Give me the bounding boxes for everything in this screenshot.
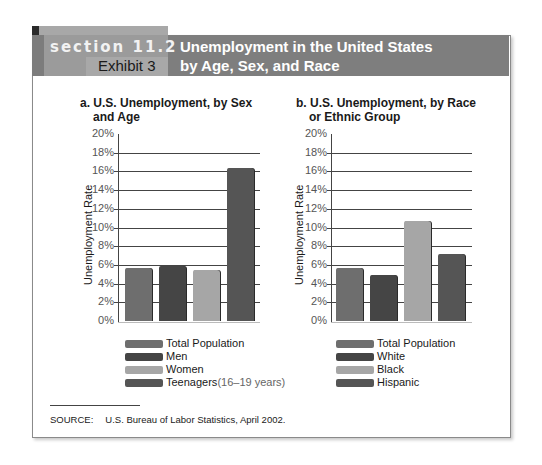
legend-item: Hispanic xyxy=(336,376,455,389)
chart-b-title-line1: b. U.S. Unemployment, by Race xyxy=(296,96,476,110)
bar-women xyxy=(193,270,220,321)
header-corner xyxy=(32,26,39,35)
source-text: U.S. Bureau of Labor Statistics, April 2… xyxy=(105,414,285,425)
exhibit-title-line2: by Age, Sex, and Race xyxy=(180,57,340,74)
bar-hispanic xyxy=(438,254,465,321)
source-label: SOURCE: xyxy=(50,414,93,425)
legend-label: Black xyxy=(377,363,404,376)
legend-item: Total Population xyxy=(336,337,455,350)
source-note: SOURCE:U.S. Bureau of Labor Statistics, … xyxy=(50,414,285,425)
legend-item: Total Population xyxy=(125,337,285,350)
exhibit-title-line1: Unemployment in the United States xyxy=(180,38,433,55)
legend-swatch xyxy=(125,340,163,348)
chart-a-legend: Total PopulationMenWomenTeenagers (16–19… xyxy=(125,337,285,389)
gridline xyxy=(327,228,472,229)
bar-men xyxy=(159,266,186,321)
legend-swatch xyxy=(336,366,374,374)
chart-b-legend: Total PopulationWhiteBlackHispanic xyxy=(336,337,455,389)
legend-label: Men xyxy=(166,350,187,363)
legend-note: (16–19 years) xyxy=(217,376,285,389)
y-tick-label: 18% xyxy=(293,146,327,158)
y-tick-label: 20% xyxy=(293,127,327,139)
bar-black xyxy=(404,221,431,321)
legend-item: White xyxy=(336,350,455,363)
x-axis xyxy=(118,322,260,323)
bar-total-population xyxy=(125,268,152,321)
gridline xyxy=(327,209,472,210)
exhibit-label: Exhibit 3 xyxy=(98,57,156,74)
y-tick-label: 2% xyxy=(293,295,327,307)
bar-white xyxy=(370,275,397,321)
legend-swatch xyxy=(336,379,374,387)
header-top-strip xyxy=(32,26,168,35)
y-tick-label: 0% xyxy=(293,314,327,326)
bar-total-population xyxy=(336,268,363,321)
section-label: section 11.2 xyxy=(50,38,178,56)
y-tick-label: 16% xyxy=(293,164,327,176)
chart-a-title-line1: a. U.S. Unemployment, by Sex xyxy=(80,96,252,110)
legend-item: Men xyxy=(125,350,285,363)
legend-label: Total Population xyxy=(166,337,244,350)
y-tick-label: 18% xyxy=(80,146,114,158)
chart-b-title-line2: or Ethnic Group xyxy=(296,110,476,124)
chart-b-ylabel: Unemployment Rate xyxy=(293,185,305,285)
y-tick-label: 16% xyxy=(80,164,114,176)
chart-a-title: a. U.S. Unemployment, by Sex and Age xyxy=(80,96,252,124)
gridline xyxy=(327,171,472,172)
gridline xyxy=(327,190,472,191)
legend-item: Teenagers (16–19 years) xyxy=(125,376,285,389)
legend-item: Black xyxy=(336,363,455,376)
y-axis xyxy=(118,134,119,322)
bar-teenagers-years xyxy=(227,168,254,321)
legend-label: Hispanic xyxy=(377,376,419,389)
legend-swatch xyxy=(125,379,163,387)
y-tick-label: 0% xyxy=(80,314,114,326)
y-tick-label: 2% xyxy=(80,295,114,307)
legend-label: Teenagers xyxy=(166,376,217,389)
header-left-strip xyxy=(32,35,44,76)
legend-swatch xyxy=(125,366,163,374)
legend-swatch xyxy=(336,353,374,361)
chart-a-ylabel: Unemployment Rate xyxy=(82,185,94,285)
legend-label: Women xyxy=(166,363,204,376)
legend-item: Women xyxy=(125,363,285,376)
legend-label: White xyxy=(377,350,405,363)
legend-swatch xyxy=(125,353,163,361)
source-divider xyxy=(50,405,140,406)
chart-a-title-line2: and Age xyxy=(80,110,252,124)
y-axis xyxy=(331,134,332,322)
gridline xyxy=(327,153,472,154)
chart-b-title: b. U.S. Unemployment, by Race or Ethnic … xyxy=(296,96,476,124)
gridline xyxy=(327,246,472,247)
x-axis xyxy=(331,322,472,323)
legend-swatch xyxy=(336,340,374,348)
gridline xyxy=(114,153,260,154)
legend-label: Total Population xyxy=(377,337,455,350)
y-tick-label: 20% xyxy=(80,127,114,139)
